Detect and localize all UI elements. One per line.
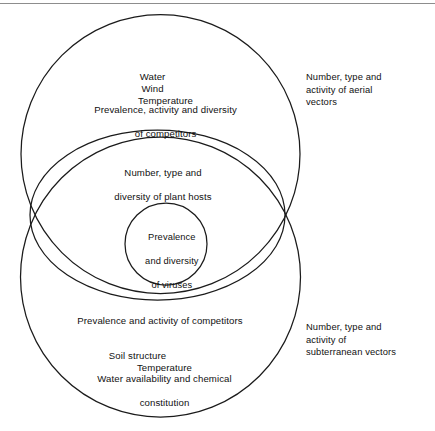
aerial-vectors-annotation: Number, type and activity of aerial vect… — [306, 71, 428, 109]
aerial-vectors-line-1: Number, type and — [306, 71, 382, 82]
water-availability-line-1: Water availability and chemical — [97, 373, 231, 384]
plant-hosts-line-1: Number, type and — [124, 167, 201, 178]
aerial-competitors-line-1: Prevalence, activity and diversity — [94, 104, 237, 115]
viruses-label: Prevalence and diversity of viruses — [0, 219, 333, 304]
subterranean-competitors-label: Prevalence and activity of competitors — [0, 315, 320, 327]
viruses-line-2: and diversity — [145, 256, 199, 266]
water-availability-line-2: constitution — [140, 397, 190, 408]
aerial-competitors-line-2: of competitors — [135, 128, 197, 139]
aerial-vectors-line-3: vectors — [306, 96, 337, 107]
aerial-competitors-label: Prevalence, activity and diversity of co… — [0, 92, 320, 152]
label-soil-structure: Soil structure — [109, 350, 166, 361]
subterranean-vectors-line-1: Number, type and — [306, 321, 382, 332]
venn-diagram-figure: Water Wind Temperature Prevalence, activ… — [0, 0, 435, 431]
plant-hosts-label: Number, type and diversity of plant host… — [0, 155, 315, 215]
label-water: Water — [140, 71, 166, 83]
viruses-line-1: Prevalence — [148, 232, 196, 242]
viruses-line-3: of viruses — [151, 280, 192, 290]
aerial-vectors-line-2: activity of aerial — [306, 84, 372, 95]
subterranean-vectors-line-2: activity of — [306, 334, 346, 345]
subterranean-vectors-line-3: subterranean vectors — [306, 346, 396, 357]
plant-hosts-line-2: diversity of plant hosts — [114, 191, 211, 202]
water-availability-label: Water availability and chemical constitu… — [0, 361, 318, 421]
subterranean-vectors-annotation: Number, type and activity of subterranea… — [306, 321, 434, 359]
